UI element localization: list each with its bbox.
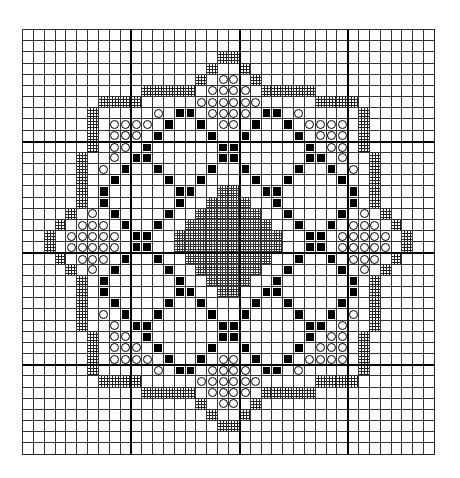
black-cell — [250, 118, 261, 129]
dense-hatch-cell — [206, 230, 217, 241]
hatch-cell — [250, 74, 261, 85]
empty-cell — [282, 331, 293, 342]
empty-cell — [412, 308, 423, 319]
empty-cell — [304, 197, 315, 208]
empty-cell — [380, 398, 391, 409]
empty-cell — [65, 308, 76, 319]
empty-cell — [261, 342, 272, 353]
empty-cell — [239, 29, 250, 40]
hatch-cell — [369, 320, 380, 331]
empty-cell — [271, 152, 282, 163]
empty-cell — [293, 96, 304, 107]
empty-cell — [423, 63, 434, 74]
empty-cell — [163, 107, 174, 118]
empty-cell — [206, 297, 217, 308]
empty-cell — [163, 241, 174, 252]
circle-cell — [65, 241, 76, 252]
black-cell — [239, 342, 250, 353]
empty-cell — [347, 442, 358, 453]
black-cell — [282, 208, 293, 219]
empty-cell — [423, 29, 434, 40]
empty-cell — [55, 331, 66, 342]
hatch-cell — [261, 387, 272, 398]
empty-cell — [109, 51, 120, 62]
empty-cell — [261, 297, 272, 308]
dense-hatch-cell — [206, 241, 217, 252]
empty-cell — [347, 63, 358, 74]
empty-cell — [120, 387, 131, 398]
empty-cell — [250, 63, 261, 74]
empty-cell — [33, 286, 44, 297]
black-cell — [109, 174, 120, 185]
empty-cell — [174, 431, 185, 442]
empty-cell — [98, 353, 109, 364]
empty-cell — [401, 308, 412, 319]
empty-cell — [55, 51, 66, 62]
empty-cell — [271, 96, 282, 107]
empty-cell — [44, 141, 55, 152]
hatch-cell — [87, 342, 98, 353]
dense-hatch-cell — [250, 264, 261, 275]
empty-cell — [55, 320, 66, 331]
empty-cell — [401, 174, 412, 185]
empty-cell — [380, 96, 391, 107]
hatch-cell — [44, 241, 55, 252]
empty-cell — [44, 40, 55, 51]
empty-cell — [141, 130, 152, 141]
empty-cell — [141, 264, 152, 275]
hatch-cell — [55, 219, 66, 230]
empty-cell — [22, 342, 33, 353]
circle-cell — [217, 118, 228, 129]
empty-cell — [315, 29, 326, 40]
dense-hatch-cell — [185, 230, 196, 241]
black-cell — [315, 241, 326, 252]
empty-cell — [336, 398, 347, 409]
empty-cell — [336, 431, 347, 442]
empty-cell — [76, 29, 87, 40]
empty-cell — [412, 353, 423, 364]
empty-cell — [130, 174, 141, 185]
empty-cell — [141, 185, 152, 196]
empty-cell — [412, 398, 423, 409]
hatch-cell — [76, 275, 87, 286]
dense-hatch-cell — [239, 241, 250, 252]
black-cell — [174, 275, 185, 286]
empty-cell — [391, 409, 402, 420]
empty-cell — [76, 331, 87, 342]
empty-cell — [261, 353, 272, 364]
empty-cell — [401, 252, 412, 263]
empty-cell — [423, 241, 434, 252]
empty-cell — [391, 74, 402, 85]
circle-cell — [76, 241, 87, 252]
empty-cell — [261, 320, 272, 331]
empty-cell — [282, 163, 293, 174]
empty-cell — [195, 185, 206, 196]
empty-cell — [87, 375, 98, 386]
empty-cell — [65, 107, 76, 118]
empty-cell — [304, 342, 315, 353]
empty-cell — [282, 431, 293, 442]
empty-cell — [228, 130, 239, 141]
empty-cell — [98, 40, 109, 51]
dense-hatch-cell — [261, 252, 272, 263]
black-cell — [141, 241, 152, 252]
hatch-cell — [271, 85, 282, 96]
empty-cell — [336, 40, 347, 51]
empty-cell — [65, 398, 76, 409]
empty-cell — [141, 364, 152, 375]
black-cell — [282, 353, 293, 364]
empty-cell — [55, 163, 66, 174]
empty-cell — [152, 174, 163, 185]
empty-cell — [401, 40, 412, 51]
empty-cell — [65, 331, 76, 342]
empty-cell — [271, 308, 282, 319]
empty-cell — [315, 331, 326, 342]
empty-cell — [33, 96, 44, 107]
hatch-cell — [87, 118, 98, 129]
empty-cell — [55, 431, 66, 442]
empty-cell — [44, 85, 55, 96]
empty-cell — [304, 275, 315, 286]
empty-cell — [358, 409, 369, 420]
empty-cell — [206, 51, 217, 62]
empty-cell — [250, 85, 261, 96]
